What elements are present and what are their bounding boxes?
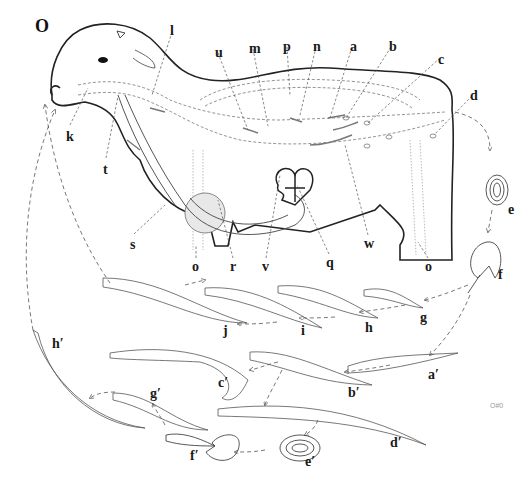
- label-i: i: [301, 324, 305, 338]
- label-t: t: [103, 163, 108, 177]
- hatching-f-prime: [166, 434, 239, 460]
- label-c-prime: c′: [218, 376, 228, 390]
- label-d-prime: d′: [390, 436, 402, 450]
- leader-lines: [70, 32, 472, 258]
- eye-icon: [98, 57, 108, 63]
- sheep-head-features: [98, 31, 155, 68]
- label-j: j: [223, 324, 228, 338]
- ear-icon: [133, 50, 155, 68]
- larvae-free: [103, 278, 423, 328]
- label-p: p: [283, 40, 291, 54]
- label-w: w: [364, 237, 374, 251]
- label-k: k: [66, 130, 74, 144]
- label-e: e: [508, 203, 514, 217]
- label-o-right: o: [425, 260, 432, 274]
- horn-icon: [117, 31, 125, 38]
- larva-j: [103, 278, 247, 323]
- label-u: u: [215, 46, 223, 60]
- label-f: f: [498, 268, 503, 282]
- heart: [276, 168, 313, 205]
- label-h: h: [365, 321, 373, 335]
- larva-a-prime: [348, 353, 458, 373]
- label-a: a: [350, 40, 357, 54]
- label-m: m: [249, 42, 261, 56]
- worm-marks-in-host: [127, 108, 358, 150]
- legs: [193, 140, 426, 255]
- adult-h-prime: [33, 330, 145, 428]
- label-a-prime: a′: [428, 368, 439, 382]
- label-c: c: [438, 53, 444, 67]
- label-q: q: [326, 256, 334, 270]
- larvae-parasitic: [33, 330, 458, 445]
- label-e-prime: e′: [305, 455, 315, 469]
- label-h-prime: h′: [52, 337, 64, 351]
- illustration-canvas: [0, 0, 532, 482]
- label-v: v: [262, 260, 269, 274]
- life-cycle-figure: O O#0 k l t u m p n a b c d s r v q w o …: [0, 0, 532, 482]
- larva-h: [278, 286, 378, 318]
- cysts-in-host: [343, 116, 436, 148]
- label-d: d: [470, 89, 478, 103]
- larva-i: [205, 288, 322, 328]
- artist-signature: O#0: [490, 402, 503, 409]
- label-r: r: [230, 260, 236, 274]
- larva-g: [364, 289, 423, 308]
- cycle-arrows: [26, 105, 492, 452]
- egg-e: [486, 175, 508, 205]
- label-b: b: [389, 40, 397, 54]
- larva-b-prime: [250, 352, 372, 385]
- panel-letter: O: [35, 16, 49, 37]
- digestive-tract: [78, 79, 445, 144]
- label-o-left: o: [192, 260, 199, 274]
- label-l: l: [170, 24, 174, 38]
- label-g: g: [420, 311, 427, 325]
- label-s: s: [130, 238, 135, 252]
- label-g-prime: g′: [150, 387, 161, 401]
- respiratory-system: [118, 95, 304, 235]
- label-b-prime: b′: [348, 386, 360, 400]
- label-n: n: [313, 40, 321, 54]
- label-f-prime: f′: [190, 449, 199, 463]
- hatching-f: [468, 242, 501, 293]
